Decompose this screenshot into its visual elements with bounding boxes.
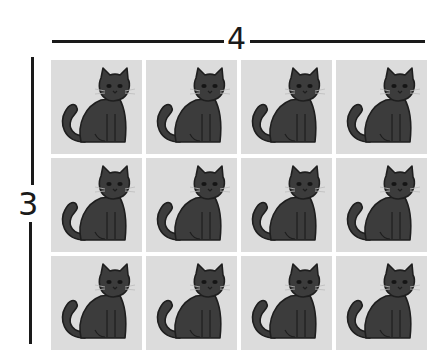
columns-label: 4 [224,24,249,54]
dark-cat-icon: .body{fill:#3c3c3c;stroke:#1e1e1e;stroke… [245,260,329,346]
dark-cat-icon: .body{fill:#3c3c3c;stroke:#1e1e1e;stroke… [150,260,234,346]
white-cat-icon: .body{fill:#f4f4f4;stroke:#2a2a2a;stroke… [340,64,424,150]
white-cat-icon: .body{fill:#f4f4f4;stroke:#2a2a2a;stroke… [245,64,329,150]
array-cell: .body{fill:#6e6e6e;stroke:#1e1e1e;stroke… [51,158,142,252]
rows-label: 3 [18,186,38,222]
gray-cat-icon: .body{fill:#6e6e6e;stroke:#1e1e1e;stroke… [150,162,234,248]
array-cell: .body{fill:#3c3c3c;stroke:#1e1e1e;stroke… [241,256,332,350]
array-cell: .body{fill:#f4f4f4;stroke:#2a2a2a;stroke… [51,60,142,154]
white-cat-icon: .body{fill:#f4f4f4;stroke:#2a2a2a;stroke… [150,64,234,150]
array-cell: .body{fill:#6e6e6e;stroke:#1e1e1e;stroke… [241,158,332,252]
array-cell: .body{fill:#3c3c3c;stroke:#1e1e1e;stroke… [51,256,142,350]
gray-cat-icon: .body{fill:#6e6e6e;stroke:#1e1e1e;stroke… [340,162,424,248]
dark-cat-icon: .body{fill:#3c3c3c;stroke:#1e1e1e;stroke… [340,260,424,346]
array-cell: .body{fill:#6e6e6e;stroke:#1e1e1e;stroke… [146,158,237,252]
rows-dimension-line-top [31,57,34,185]
array-cell: .body{fill:#6e6e6e;stroke:#1e1e1e;stroke… [336,158,427,252]
array-cell: .body{fill:#3c3c3c;stroke:#1e1e1e;stroke… [146,256,237,350]
dark-cat-icon: .body{fill:#3c3c3c;stroke:#1e1e1e;stroke… [55,260,139,346]
cat-array-grid: .body{fill:#f4f4f4;stroke:#2a2a2a;stroke… [51,60,427,350]
rows-dimension-line-bottom [29,218,32,344]
columns-dimension-line-right [250,40,425,43]
array-cell: .body{fill:#f4f4f4;stroke:#2a2a2a;stroke… [146,60,237,154]
array-cell: .body{fill:#3c3c3c;stroke:#1e1e1e;stroke… [336,256,427,350]
gray-cat-icon: .body{fill:#6e6e6e;stroke:#1e1e1e;stroke… [245,162,329,248]
gray-cat-icon: .body{fill:#6e6e6e;stroke:#1e1e1e;stroke… [55,162,139,248]
columns-dimension-line-left [52,40,224,43]
array-cell: .body{fill:#f4f4f4;stroke:#2a2a2a;stroke… [241,60,332,154]
array-cell: .body{fill:#f4f4f4;stroke:#2a2a2a;stroke… [336,60,427,154]
white-cat-icon: .body{fill:#f4f4f4;stroke:#2a2a2a;stroke… [55,64,139,150]
